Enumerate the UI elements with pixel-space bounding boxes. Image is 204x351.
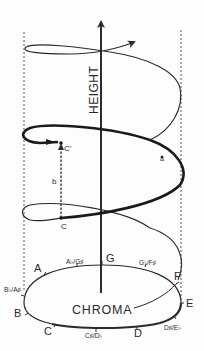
segment-a-arrowhead bbox=[46, 139, 55, 145]
height-axis-label: HEIGHT bbox=[87, 65, 101, 114]
chroma-label: CHROMA bbox=[72, 303, 132, 317]
point-c-prime-label: C' bbox=[64, 144, 72, 153]
chroma-ticks bbox=[21, 261, 184, 332]
chroma-circle-back bbox=[24, 265, 181, 303]
helix-upper-rise bbox=[110, 52, 181, 140]
pitch-helix-diagram: HEIGHT CHROMA C' C b a A A♭/G♯ G G♭/F♯ F… bbox=[0, 0, 204, 351]
note-label-e: E bbox=[186, 297, 193, 309]
note-label-c: C bbox=[44, 325, 52, 337]
point-c bbox=[59, 216, 63, 220]
note-label-ds-eb: D♯/E♭ bbox=[164, 324, 181, 331]
note-label-a: A bbox=[34, 262, 42, 274]
chroma-circle-front-left bbox=[24, 303, 52, 324]
point-c-label: C bbox=[61, 222, 67, 231]
note-label-f: F bbox=[174, 270, 181, 282]
note-label-gb-fs: G♭/F♯ bbox=[139, 259, 156, 266]
note-label-cs-db: C♯/D♭ bbox=[85, 332, 102, 339]
helix-top-loop bbox=[25, 42, 134, 54]
note-label-b: B bbox=[14, 307, 21, 319]
segment-a-label: a bbox=[160, 155, 164, 162]
chroma-leader-line bbox=[134, 283, 177, 308]
segment-b-label: b bbox=[52, 177, 57, 186]
note-label-g: G bbox=[106, 252, 115, 264]
helix-figure: HEIGHT CHROMA C' C b a A A♭/G♯ G G♭/F♯ F… bbox=[0, 0, 204, 351]
note-label-d: D bbox=[134, 327, 142, 339]
point-c-prime bbox=[59, 141, 63, 145]
note-label-bb-as: B♭/A♯ bbox=[4, 286, 21, 293]
note-label-ab-gs: A♭/G♯ bbox=[66, 258, 83, 265]
